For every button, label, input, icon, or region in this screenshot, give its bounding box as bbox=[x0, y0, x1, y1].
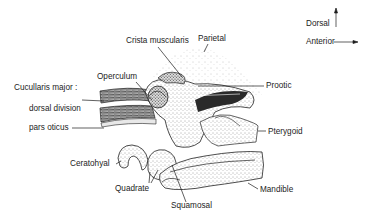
label-pars-oticus: pars oticus bbox=[29, 124, 69, 132]
label-dorsal-division: dorsal division bbox=[29, 105, 81, 113]
label-squamosal: Squamosal bbox=[171, 202, 212, 210]
pterygoid-bone bbox=[200, 115, 258, 146]
label-prootic: Prootic bbox=[266, 82, 291, 90]
label-quadrate: Quadrate bbox=[115, 185, 149, 193]
mandible-bone bbox=[160, 152, 264, 190]
label-dorsal: Dorsal bbox=[306, 20, 330, 28]
label-operculum: Operculum bbox=[97, 73, 137, 81]
label-crista-muscularis: Crista muscularis bbox=[126, 37, 189, 45]
ceratohyal-bone bbox=[118, 145, 148, 170]
orientation-arrows bbox=[334, 8, 358, 44]
label-parietal: Parietal bbox=[198, 35, 226, 43]
label-cucullaris-major: Cucullaris major : bbox=[14, 84, 77, 92]
label-anterior: Anterior bbox=[306, 38, 335, 46]
label-pterygoid: Pterygoid bbox=[268, 128, 303, 136]
label-mandible: Mandible bbox=[260, 186, 293, 194]
label-ceratohyal: Ceratohyal bbox=[70, 160, 110, 168]
